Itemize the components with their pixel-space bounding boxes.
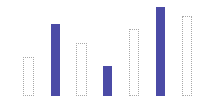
bar-5 bbox=[129, 29, 139, 96]
bar-1 bbox=[23, 57, 34, 96]
bar-4 bbox=[103, 66, 112, 96]
bar-6 bbox=[156, 7, 165, 96]
bar-7 bbox=[182, 16, 192, 96]
bar-2 bbox=[51, 24, 60, 96]
bar-chart bbox=[0, 0, 206, 105]
bar-3 bbox=[76, 43, 87, 96]
